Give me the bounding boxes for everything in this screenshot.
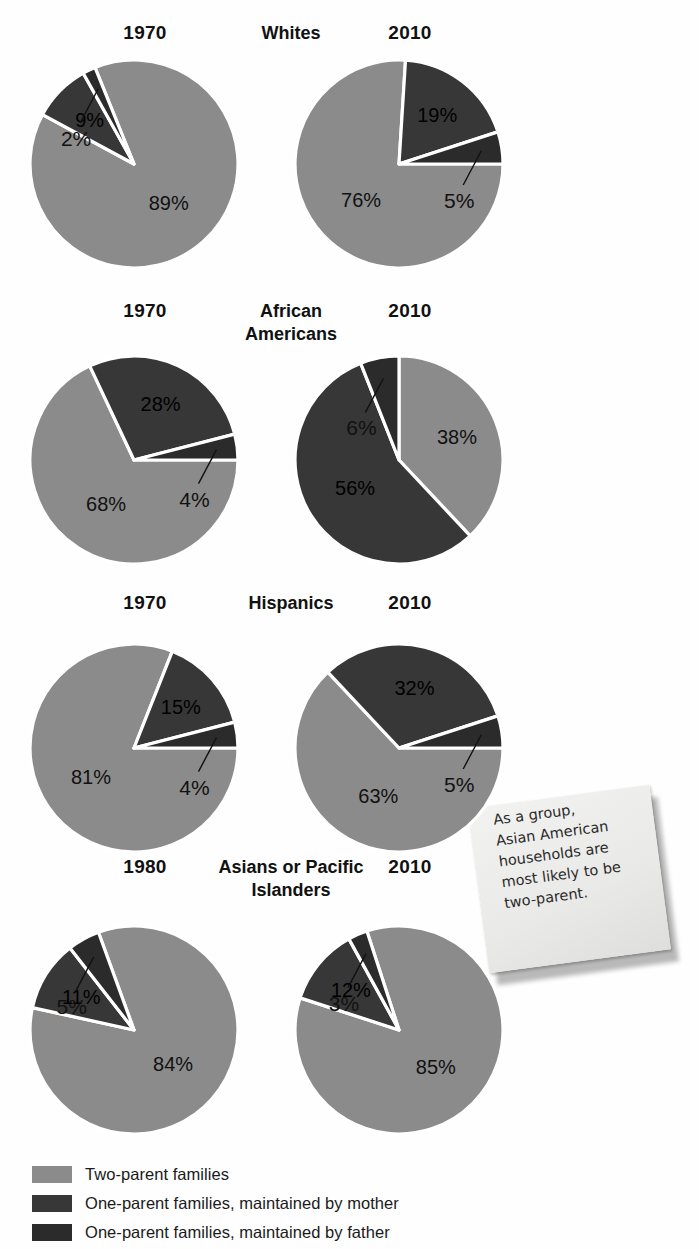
pie-container-1980: 5%84%11%5%	[22, 918, 254, 1212]
group-title-line: Whites	[196, 22, 386, 45]
legend-swatch-father	[32, 1224, 72, 1241]
pie-container-2010: 3%85%12%3%	[287, 918, 519, 1212]
pie-slice-label-two_parent: 84%	[153, 1053, 193, 1075]
pie-slice-label-mother: 56%	[335, 477, 375, 499]
pie-container-1970: 4%81%15%4%	[22, 636, 254, 930]
pie-container-1970: 2%89%9%2%	[22, 52, 254, 346]
pie-slice-label-two_parent: 85%	[416, 1056, 456, 1078]
pie-chart: 81%15%	[22, 636, 254, 868]
pie-slice-label-two_parent: 81%	[71, 766, 111, 788]
pie-container-2010: 5%63%32%5%	[287, 636, 519, 930]
pie-chart: 84%11%	[22, 918, 254, 1150]
legend-label-father: One-parent families, maintained by fathe…	[85, 1223, 390, 1242]
pie-slice-label-mother: 28%	[141, 393, 181, 415]
pie-container-1970: 4%68%28%4%	[22, 348, 254, 642]
pie-chart: 85%12%	[287, 918, 519, 1150]
pie-slice-label-two_parent: 68%	[86, 493, 126, 515]
pie-slice-label-mother: 9%	[75, 109, 104, 131]
pie-chart: 76%19%	[287, 52, 519, 284]
pie-slice-label-mother: 11%	[62, 986, 101, 1008]
pie-slice-label-two_parent: 38%	[437, 426, 477, 448]
infographic-page: 19702010Whites19702010AfricanAmericans19…	[0, 0, 699, 1249]
pie-chart: 89%9%	[22, 52, 254, 284]
pie-chart: 63%32%	[287, 636, 519, 868]
pie-slice-label-mother: 19%	[417, 104, 457, 126]
year-label-1970: 1970	[90, 22, 200, 44]
pie-container-2010: 5%76%19%5%	[287, 52, 519, 346]
pie-slice-label-two_parent: 63%	[358, 785, 398, 807]
legend-item-father: One-parent families, maintained by fathe…	[32, 1218, 652, 1247]
pie-slice-label-mother: 32%	[394, 677, 434, 699]
pie-slice-label-two_parent: 76%	[341, 189, 381, 211]
pie-slice-label-two_parent: 89%	[149, 192, 189, 214]
pie-container-2010: 6%38%56%6%	[287, 348, 519, 642]
pie-slice-label-mother: 12%	[331, 979, 371, 1001]
cut-off-title	[0, 0, 699, 10]
pie-chart: 68%28%	[22, 348, 254, 580]
pie-chart: 38%56%	[287, 348, 519, 580]
group-title: Whites	[196, 22, 386, 45]
pie-slice-label-mother: 15%	[161, 696, 201, 718]
